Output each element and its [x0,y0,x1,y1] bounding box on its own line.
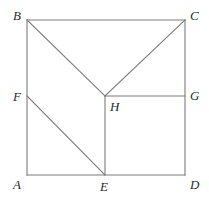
geometry-figure: B C F G H A E D [0,0,209,198]
vertex-label-C: C [190,9,199,22]
diagonal-BH [27,20,105,96]
vertex-label-B: B [13,9,21,22]
figure-canvas [0,0,209,198]
vertex-label-G: G [190,89,199,102]
vertex-label-E: E [100,180,108,193]
vertex-label-A: A [13,178,21,191]
diagonal-FE [27,96,105,175]
diagonal-HC [105,20,185,96]
vertex-label-F: F [13,90,21,103]
vertex-label-H: H [110,100,119,113]
vertex-label-D: D [190,178,199,191]
